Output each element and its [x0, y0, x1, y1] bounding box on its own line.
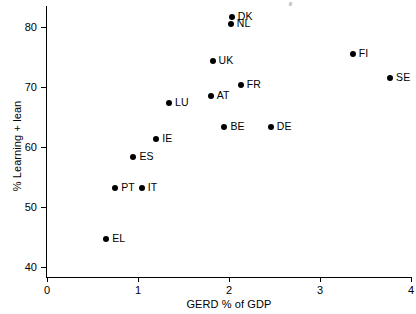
- y-tick: 60: [0, 147, 46, 148]
- data-point-marker: [112, 185, 118, 191]
- data-point-label: ES: [139, 151, 153, 162]
- data-point-label: PT: [121, 182, 135, 193]
- x-tick-mark: [320, 277, 321, 282]
- x-tick: 0: [47, 0, 48, 1]
- data-point-marker: [166, 100, 172, 106]
- data-point-label: FI: [359, 48, 369, 59]
- data-point-marker: [387, 75, 393, 81]
- data-point-marker: [229, 14, 235, 20]
- y-tick-label: 40: [15, 262, 37, 273]
- y-axis-label: % Learning + lean: [11, 66, 23, 226]
- x-tick-label: 4: [401, 285, 416, 296]
- data-point-label: SE: [396, 72, 410, 83]
- image-artifact-speck: [288, 2, 292, 7]
- x-tick: 2: [229, 0, 230, 1]
- x-tick-label: 0: [37, 285, 57, 296]
- data-point-label: NL: [237, 18, 251, 29]
- data-point-label: EL: [112, 233, 125, 244]
- data-point-label: UK: [219, 55, 234, 66]
- scatter-chart: 4050607080 01234 DKNLFIUKSEFRATLUBEDEIEE…: [0, 0, 416, 314]
- x-tick-mark: [229, 277, 230, 282]
- data-point-label: BE: [230, 121, 244, 132]
- y-tick: 80: [0, 27, 46, 28]
- x-axis-label: GERD % of GDP: [47, 298, 411, 310]
- data-point-label: LU: [175, 97, 189, 108]
- x-tick-label: 1: [128, 285, 148, 296]
- y-axis-line: [46, 6, 47, 277]
- data-point-label: IT: [148, 182, 158, 193]
- data-point-marker: [153, 136, 159, 142]
- data-point-marker: [350, 51, 356, 57]
- data-point-marker: [208, 93, 214, 99]
- data-point-marker: [210, 58, 216, 64]
- data-point-label: IE: [162, 133, 172, 144]
- x-tick-mark: [47, 277, 48, 282]
- x-tick-label: 3: [310, 285, 330, 296]
- y-tick: 40: [0, 267, 46, 268]
- x-tick-label: 2: [219, 285, 239, 296]
- y-tick: 70: [0, 87, 46, 88]
- data-point-marker: [139, 185, 145, 191]
- data-point-marker: [221, 124, 227, 130]
- y-tick: 50: [0, 207, 46, 208]
- data-point-marker: [268, 124, 274, 130]
- x-tick: 4: [411, 0, 412, 1]
- data-point-marker: [130, 154, 136, 160]
- y-tick-label: 80: [15, 22, 37, 33]
- data-point-marker: [103, 236, 109, 242]
- data-point-label: DE: [277, 121, 292, 132]
- data-point-marker: [228, 21, 234, 27]
- x-tick-mark: [411, 277, 412, 282]
- data-point-label: FR: [247, 79, 261, 90]
- data-point-label: AT: [217, 90, 230, 101]
- x-tick: 3: [320, 0, 321, 1]
- data-point-marker: [238, 82, 244, 88]
- x-tick: 1: [138, 0, 139, 1]
- x-tick-mark: [138, 277, 139, 282]
